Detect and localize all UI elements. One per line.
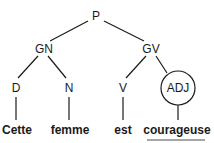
- node-d: D: [12, 81, 21, 95]
- node-p: P: [92, 9, 100, 23]
- node-gn: GN: [35, 42, 53, 56]
- edge-gn-n: [48, 56, 66, 78]
- word-courageuse: courageuse: [143, 123, 210, 137]
- edge-p-gv: [104, 21, 144, 41]
- tree-edges: [0, 0, 214, 143]
- edge-gn-d: [18, 56, 38, 78]
- word-est: est: [114, 123, 131, 137]
- node-gv: GV: [142, 42, 159, 56]
- edge-gv-v: [126, 56, 146, 78]
- node-adj: ADJ: [167, 81, 190, 95]
- edge-p-gn: [50, 21, 88, 41]
- edge-gv-adj: [156, 56, 167, 73]
- word-femme: femme: [51, 123, 90, 137]
- node-v: V: [119, 81, 127, 95]
- word-cette: Cette: [2, 123, 32, 137]
- node-n: N: [65, 81, 74, 95]
